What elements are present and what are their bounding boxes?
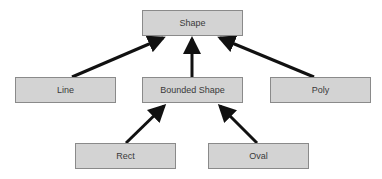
- arrow-rect-to-bounded: [126, 106, 164, 143]
- node-line: Line: [15, 77, 116, 103]
- arrow-line-to-shape: [72, 38, 163, 77]
- node-label: Rect: [116, 151, 135, 161]
- arrow-poly-to-shape: [220, 38, 314, 77]
- node-label: Line: [57, 85, 74, 95]
- node-label: Poly: [312, 85, 330, 95]
- node-poly: Poly: [270, 77, 371, 103]
- node-label: Oval: [249, 151, 268, 161]
- node-label: Bounded Shape: [160, 85, 225, 95]
- arrow-oval-to-bounded: [220, 106, 257, 143]
- node-oval: Oval: [208, 143, 309, 169]
- node-shape: Shape: [142, 10, 243, 36]
- node-rect: Rect: [75, 143, 176, 169]
- node-bounded-shape: Bounded Shape: [142, 77, 243, 103]
- node-label: Shape: [179, 18, 205, 28]
